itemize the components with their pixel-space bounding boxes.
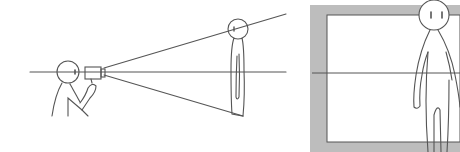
view-cone-top bbox=[104, 14, 286, 68]
operator-forearm bbox=[80, 84, 96, 110]
subject-arm bbox=[236, 54, 240, 99]
operator-front bbox=[70, 84, 80, 102]
camcorder-grip bbox=[91, 79, 92, 83]
framed-view-panel bbox=[310, 0, 460, 152]
camcorder-body bbox=[85, 67, 101, 79]
camera-operator bbox=[52, 61, 96, 116]
operator-back bbox=[52, 83, 62, 116]
left-scene bbox=[30, 14, 286, 116]
view-cone-bottom bbox=[104, 75, 243, 116]
camcorder bbox=[85, 67, 105, 83]
camcorder-lens bbox=[101, 69, 105, 77]
camera-framing-diagram bbox=[0, 0, 460, 152]
subject-body bbox=[231, 38, 244, 116]
subject-head bbox=[228, 19, 248, 39]
standing-subject bbox=[228, 19, 248, 116]
closeup-head bbox=[419, 0, 449, 30]
operator-arm bbox=[68, 98, 88, 116]
